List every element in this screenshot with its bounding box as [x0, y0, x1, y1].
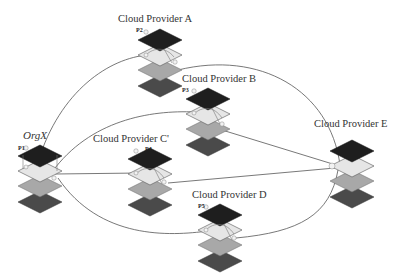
edge-c-e — [168, 168, 335, 183]
stack-orgx[interactable] — [18, 145, 62, 213]
stack-cloud-provider-a[interactable] — [138, 29, 182, 97]
edge-d-e — [236, 170, 338, 238]
peer-label-p5: P5 — [198, 203, 205, 209]
label-cloud-provider-d: Cloud Provider D — [192, 189, 267, 200]
peer-label-p2: P2 — [136, 27, 143, 33]
stack-cloud-provider-e[interactable] — [329, 140, 374, 208]
stack-cloud-provider-c[interactable] — [128, 148, 172, 216]
edge-orgx-c — [55, 173, 140, 174]
label-cloud-provider-a: Cloud Provider A — [118, 13, 193, 24]
stack-cloud-provider-d[interactable] — [198, 204, 242, 272]
edge-orgx-a — [38, 55, 148, 162]
peer-label-p1: P1 — [18, 145, 25, 151]
label-cloud-provider-e: Cloud Provider E — [314, 118, 388, 129]
peer-label-p3: P3 — [182, 87, 189, 93]
diagram-canvas: OrgX P1 Cloud Provider A P2 Cloud Provid… — [0, 0, 396, 277]
label-cloud-provider-c: Cloud Provider C' — [93, 133, 169, 144]
label-cloud-provider-b: Cloud Provider B — [182, 73, 256, 84]
edge-b-e — [222, 130, 336, 165]
peer-label-p4: P4 — [145, 146, 152, 152]
stack-cloud-provider-b[interactable] — [186, 88, 230, 156]
label-orgx: OrgX — [23, 129, 48, 141]
